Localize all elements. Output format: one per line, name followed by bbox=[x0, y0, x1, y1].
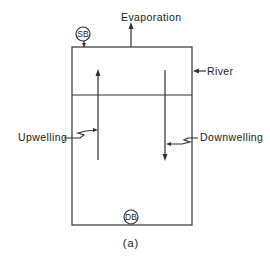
downwelling-leader-line bbox=[169, 138, 198, 144]
ocean-box-outline bbox=[72, 47, 192, 225]
upwelling-leader-line bbox=[64, 130, 96, 138]
downwelling-leader-arrowhead-icon bbox=[166, 142, 171, 146]
evaporation-label: Evaporation bbox=[121, 11, 181, 23]
upwelling-label: Upwelling bbox=[18, 131, 67, 143]
ocean-box-model-diagram: Evaporation SB River Upwelling Downwelli… bbox=[0, 0, 270, 263]
deep-box-label: DB bbox=[125, 212, 137, 222]
deep-box-node: DB bbox=[124, 210, 138, 224]
upwelling-arrow-icon bbox=[96, 69, 101, 160]
downwelling-arrow-icon bbox=[163, 70, 168, 161]
river-arrow-icon bbox=[193, 69, 206, 74]
surface-box-node: SB bbox=[76, 27, 90, 47]
upwelling-leader-arrowhead-icon bbox=[93, 128, 98, 132]
figure-caption: (a) bbox=[123, 237, 139, 249]
evaporation-arrow-icon bbox=[129, 22, 134, 47]
river-label: River bbox=[207, 65, 234, 77]
downwelling-label: Downwelling bbox=[200, 131, 263, 143]
surface-box-label: SB bbox=[77, 29, 89, 39]
